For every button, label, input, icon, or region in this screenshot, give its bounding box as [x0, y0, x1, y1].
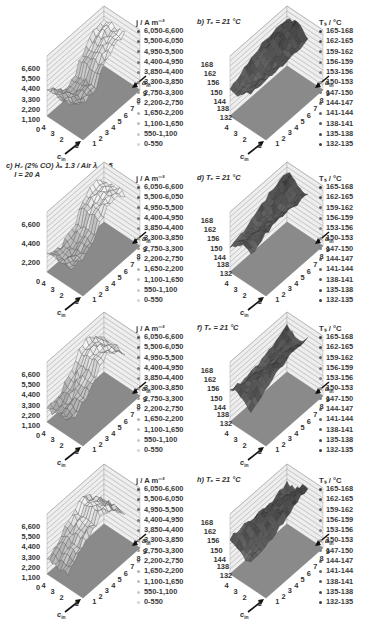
legend-swatch [137, 336, 140, 339]
a-in-axis-label: ain [142, 78, 151, 88]
legend-swatch [137, 439, 140, 442]
a-in-tick-label: 3 [105, 284, 109, 293]
a-in-tick-label: 6 [124, 569, 128, 578]
legend-swatch [137, 71, 140, 74]
a-in-axis-label: ain [325, 234, 334, 244]
legend-label: 2,200-2,750 [144, 556, 183, 566]
legend-label: 2,200-2,750 [144, 254, 183, 264]
a-in-tick-label: 1 [92, 445, 96, 454]
legend-label: 159-162 [326, 203, 353, 213]
a-in-tick-label: 5 [301, 117, 305, 126]
legend-item: 141-144 [319, 264, 353, 274]
legend-item: 1,650-2,200 [137, 566, 183, 576]
legend-swatch [319, 81, 322, 84]
a-in-tick-label: 1 [275, 597, 279, 606]
c-in-tick-label: 3 [234, 435, 238, 444]
legend-item: 165-168 [319, 26, 353, 36]
legend-swatch [137, 247, 140, 250]
legend-swatch [137, 601, 140, 604]
legend-item: 4,400-4,950 [137, 363, 183, 373]
ts-panel: h) Tₑ = 21 °C Tₛ / °C 165-168162-165159-… [183, 462, 366, 614]
legend-label: 4,400-4,950 [144, 57, 183, 67]
legend-label: 153-156 [326, 67, 353, 77]
a-in-tick-label: 5 [118, 117, 122, 126]
legend-swatch [319, 397, 322, 400]
j-panel: j / A m⁻² 6,050-6,6005,500-6,0504,950-5,… [0, 4, 183, 156]
a-in-tick-label: 7 [313, 562, 317, 571]
legend-item: 6,050-6,600 [137, 484, 183, 494]
legend-item: 159-162 [319, 353, 353, 363]
a-in-tick-label: 4 [111, 279, 115, 288]
legend-swatch [137, 217, 140, 220]
legend-label: 135-138 [326, 435, 353, 445]
a-in-tick-label: 3 [288, 128, 292, 137]
legend-swatch [319, 387, 322, 390]
legend-item: 147-150 [319, 88, 353, 98]
legend-item: 132-135 [319, 597, 353, 607]
a-in-tick-label: 7 [130, 104, 134, 113]
legend-item: 1,650-2,200 [137, 264, 183, 274]
legend-swatch [319, 133, 322, 136]
legend-label: 153-156 [326, 373, 353, 383]
legend-label: 6,050-6,600 [144, 182, 183, 192]
legend-swatch [137, 112, 140, 115]
a-in-tick-label: 2 [282, 592, 286, 601]
legend-item: 156-159 [319, 515, 353, 525]
c-in-tick-label: 3 [51, 129, 55, 138]
legend-label: 156-159 [326, 515, 353, 525]
a-in-tick-label: 7 [130, 410, 134, 419]
z-tick-label: 132 [204, 269, 232, 279]
legend-swatch [137, 397, 140, 400]
legend-item: 165-168 [319, 484, 353, 494]
legend-swatch [319, 143, 322, 146]
z-tick-label: 4,400 [12, 239, 40, 249]
a-in-tick-label: 6 [124, 111, 128, 120]
legend-label: 156-159 [326, 363, 353, 373]
legend-item: 135-138 [319, 129, 353, 139]
a-in-tick-label: 5 [118, 273, 122, 282]
legend-label: 165-168 [326, 182, 353, 192]
a-in-tick-label: 4 [294, 123, 298, 132]
legend-swatch [319, 30, 322, 33]
legend-swatch [137, 206, 140, 209]
c-in-tick-label: 1 [75, 447, 79, 456]
a-in-axis-label: ain [325, 536, 334, 546]
c-in-tick-label: 3 [51, 435, 55, 444]
legend-item: 0-550 [137, 597, 183, 607]
legend-item: 0-550 [137, 139, 183, 149]
legend-label: 1,650-2,200 [144, 108, 183, 118]
legend-item: 5,500-6,050 [137, 36, 183, 46]
c-in-tick-label: 3 [51, 587, 55, 596]
figure-row: j / A m⁻² 6,050-6,6005,500-6,0504,950-5,… [0, 4, 367, 156]
legend-swatch [319, 549, 322, 552]
legend-label: 1,650-2,200 [144, 566, 183, 576]
legend-item: 0-550 [137, 445, 183, 455]
legend-label: 132-135 [326, 597, 353, 607]
legend-label: 0-550 [144, 295, 163, 305]
a-in-tick-label: 2 [99, 440, 103, 449]
a-in-tick-label: 3 [105, 128, 109, 137]
figure-row: c) H₂ (2% CO) λₐ 1.3 / Air λ꜀ 2.5 I = 20… [0, 160, 367, 312]
legend-swatch [319, 346, 322, 349]
c-in-tick-label: 4 [225, 581, 229, 590]
legend-item: 135-138 [319, 435, 353, 445]
legend-label: 144-147 [326, 98, 353, 108]
legend-label: 141-144 [326, 108, 353, 118]
legend-swatch [137, 196, 140, 199]
legend-item: 153-156 [319, 525, 353, 535]
a-in-tick-label: 9 [326, 395, 330, 404]
legend-swatch [319, 299, 322, 302]
legend-swatch [319, 71, 322, 74]
legend-item: 2,200-2,750 [137, 98, 183, 108]
legend-item: 4,950-5,500 [137, 203, 183, 213]
z-tick-label: 2,200 [12, 563, 40, 573]
z-tick-label: 4,400 [12, 84, 40, 94]
legend-item: 162-165 [319, 494, 353, 504]
legend-swatch [137, 278, 140, 281]
legend-swatch [137, 81, 140, 84]
z-tick-label: 5,500 [12, 74, 40, 84]
legend-swatch [137, 268, 140, 271]
a-in-tick-label: 4 [294, 581, 298, 590]
c-in-axis-label: cin [57, 610, 66, 620]
z-tick-label: 6,600 [12, 220, 40, 230]
